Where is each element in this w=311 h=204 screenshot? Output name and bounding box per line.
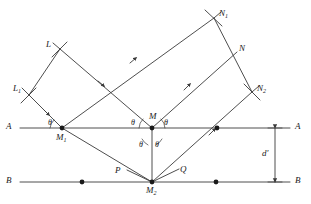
wavefront-tick-l1 (21, 88, 36, 103)
figure-canvas: A A B B L L1 N1 N N2 M M1 M2 P Q d′ θ θ … (0, 0, 311, 204)
lattice-point-b-left-dot (80, 180, 85, 185)
lattice-point-m2-dot (150, 180, 155, 185)
reflected-ray-n-label: N (239, 44, 245, 53)
incident-ray-l-label: L (46, 40, 51, 49)
incident-ray-l1-label: L1 (13, 84, 21, 93)
m2-base: M (146, 185, 154, 195)
incident-ray-l-to-m (60, 49, 152, 128)
angle-theta-m-incident: θ (131, 119, 135, 127)
l1-sub: 1 (18, 88, 21, 94)
arrow-incident-l1 (44, 110, 49, 115)
m2-sub: 2 (154, 190, 157, 196)
lattice-point-a-right-dot (215, 126, 220, 131)
n1-sub: 1 (225, 13, 228, 19)
arrow-incident-l (98, 81, 104, 86)
path-difference-m2-p (127, 170, 152, 182)
path-difference-m2-q (152, 169, 179, 182)
incident-ray-l1-tail (22, 88, 29, 95)
point-p-label: P (115, 166, 121, 175)
incident-ray-l-tail (53, 43, 60, 49)
plane-b-left-label: B (6, 176, 12, 185)
arrow-reflected-m2-n2 (184, 84, 190, 90)
reflected-wavefront-n1-n2 (214, 18, 252, 92)
m1-base: M (56, 132, 64, 142)
plane-a-left-label: A (6, 122, 12, 131)
plane-a-right-label: A (295, 122, 301, 131)
reflected-ray-m2-to-n2 (152, 92, 252, 182)
point-q-label: Q (180, 165, 187, 174)
spacing-d-prime-label: d′ (262, 149, 268, 158)
angle-theta-m-lower-left: θ (139, 141, 143, 149)
m1-sub: 1 (64, 137, 67, 143)
d-prime-mark: ′ (267, 148, 269, 158)
lattice-point-m1-dot (60, 126, 65, 131)
optics-diagram-svg (0, 0, 311, 204)
lattice-point-m-dot (150, 126, 155, 131)
reflected-ray-n2-label: N2 (257, 84, 266, 93)
angle-theta-m-lower-right: θ (155, 141, 159, 149)
point-m2-label: M2 (146, 186, 157, 195)
angle-theta-m-reflected: θ (164, 119, 168, 127)
reflected-ray-n1-label: N1 (219, 9, 228, 18)
transmitted-ray-m1-to-m2 (62, 128, 152, 182)
angle-theta-m1-incident: θ (48, 119, 52, 127)
n2-sub: 2 (263, 88, 266, 94)
lattice-point-b-right-dot (214, 180, 219, 185)
arrow-reflected-m1-n1 (130, 58, 136, 63)
reflected-ray-m1-to-n1 (62, 18, 214, 128)
incident-wavefront-l-l1 (29, 49, 60, 95)
point-m1-label: M1 (56, 133, 67, 142)
plane-b-right-label: B (295, 176, 301, 185)
angle-arc-m-left (139, 119, 143, 128)
point-m-label: M (149, 112, 157, 121)
